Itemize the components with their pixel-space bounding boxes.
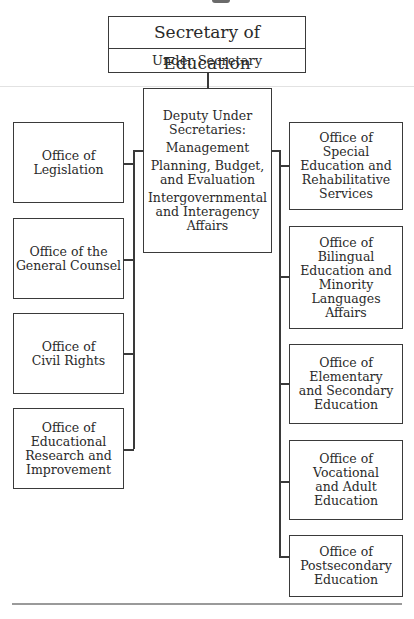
office-label-line: Office of	[319, 356, 373, 370]
cropped-heading-fragment	[212, 0, 230, 3]
office-label-line: Improvement	[26, 463, 111, 477]
deputy-heading-line: Deputy Under	[163, 109, 253, 123]
office-label-line: Education and	[300, 159, 392, 173]
office-general-counsel-box: Office of the General Counsel	[13, 218, 124, 299]
office-label-line: Postsecondary	[300, 559, 392, 573]
office-educational-research-box: Office of Educational Research and Impro…	[13, 408, 124, 489]
office-label-line: Education	[314, 494, 378, 508]
secretary-title: Secretary of Education	[109, 17, 305, 49]
office-label-line: and Adult	[315, 480, 377, 494]
office-label-line: Office of	[319, 236, 373, 250]
connector-top-deputy	[207, 72, 209, 89]
office-label-line: Vocational	[313, 466, 379, 480]
office-label-line: Civil Rights	[32, 354, 106, 368]
office-label-line: Office of	[42, 340, 96, 354]
office-civil-rights-box: Office of Civil Rights	[13, 313, 124, 394]
deputy-item-management: Management	[166, 141, 249, 155]
office-label-line: Education	[314, 398, 378, 412]
office-label-line: Languages	[311, 292, 380, 306]
office-label-line: Rehabilitative	[302, 173, 390, 187]
connector-right-3	[279, 383, 289, 385]
deputy-under-secretaries-box: Deputy Under Secretaries: Management Pla…	[143, 88, 272, 253]
office-label-line: Legislation	[33, 163, 103, 177]
deputy-item-planning: and Evaluation	[160, 173, 255, 187]
office-label-line: Education	[314, 573, 378, 587]
office-label-line: Minority	[319, 278, 373, 292]
office-label-line: Elementary	[309, 370, 382, 384]
office-label-line: Educational	[31, 435, 107, 449]
connector-left-3	[124, 353, 134, 355]
secretary-box: Secretary of Education Under Secretary	[108, 16, 306, 73]
connector-right-4	[279, 481, 289, 483]
office-vocational-adult-box: Office of Vocational and Adult Education	[289, 440, 403, 520]
office-label-line: Bilingual	[318, 250, 375, 264]
office-label-line: Research and	[25, 449, 112, 463]
office-label-line: Office of	[319, 545, 373, 559]
under-secretary-label: Under Secretary	[152, 49, 262, 73]
office-label-line: Office of	[42, 421, 96, 435]
deputy-item-planning: Planning, Budget,	[151, 159, 265, 173]
office-label-line: Office of	[319, 452, 373, 466]
office-special-education-box: Office of Special Education and Rehabili…	[289, 122, 403, 210]
office-legislation-box: Office of Legislation	[13, 122, 124, 203]
office-label-line: Services	[319, 187, 373, 201]
office-label-line: Affairs	[325, 306, 367, 320]
connector-left-stub	[133, 150, 143, 152]
connector-right-1	[279, 165, 289, 167]
office-elementary-secondary-box: Office of Elementary and Secondary Educa…	[289, 344, 403, 424]
connector-left-1	[124, 163, 134, 165]
deputy-item-intergovernmental: and Interagency	[156, 205, 260, 219]
deputy-item-intergovernmental: Affairs	[187, 219, 229, 233]
office-label-line: and Secondary	[299, 384, 394, 398]
office-bilingual-education-box: Office of Bilingual Education and Minori…	[289, 226, 403, 329]
office-label-line: Office of the	[29, 245, 107, 259]
office-label-line: Education and	[300, 264, 392, 278]
office-label-line: Special	[323, 145, 369, 159]
page-rule-bottom	[12, 603, 402, 605]
connector-right-5	[279, 556, 289, 558]
office-postsecondary-box: Office of Postsecondary Education	[289, 535, 403, 597]
deputy-item-intergovernmental: Intergovernmental	[148, 191, 267, 205]
connector-right-2	[279, 276, 289, 278]
office-label-line: Office of	[319, 131, 373, 145]
office-label-line: Office of	[42, 149, 96, 163]
connector-left-2	[124, 259, 134, 261]
right-trunk-line	[279, 150, 281, 557]
connector-left-4	[124, 449, 134, 451]
office-label-line: General Counsel	[16, 259, 121, 273]
left-trunk-line	[133, 150, 135, 449]
deputy-heading-line: Secretaries:	[169, 123, 246, 137]
